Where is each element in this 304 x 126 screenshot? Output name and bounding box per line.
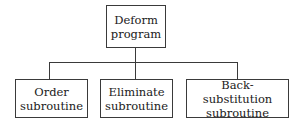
connector-to-order	[49, 62, 50, 79]
connector-horizontal-bus	[49, 62, 238, 63]
child-node-label-line2: subroutine	[20, 99, 83, 113]
program-structure-diagram: Deform program Order subroutine Eliminat…	[0, 0, 304, 126]
root-node-label-line1: Deform	[114, 13, 158, 27]
connector-to-eliminate	[135, 62, 136, 79]
root-node-label-line2: program	[111, 27, 161, 41]
child-node-label-line1: Order	[34, 85, 69, 99]
child-node-order-subroutine: Order subroutine	[15, 79, 88, 118]
child-node-label-line2: subroutine	[206, 106, 269, 120]
child-node-eliminate-subroutine: Eliminate subroutine	[100, 79, 173, 118]
child-node-back-substitution-subroutine: Back-substitution subroutine	[186, 79, 289, 118]
child-node-label-line1: Eliminate	[108, 85, 164, 99]
connector-to-back-substitution	[237, 62, 238, 79]
root-node-deform-program: Deform program	[106, 5, 166, 48]
connector-root-down	[135, 48, 136, 63]
child-node-label-line2: subroutine	[105, 99, 168, 113]
child-node-label-line1: Back-substitution	[187, 78, 288, 106]
